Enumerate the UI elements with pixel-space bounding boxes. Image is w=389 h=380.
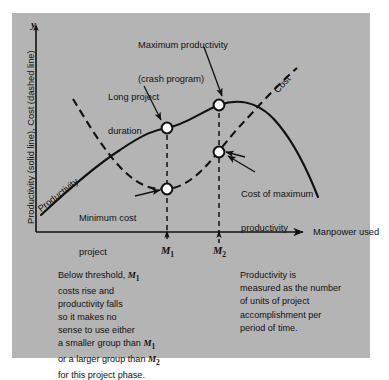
- note-variable: M1: [143, 338, 155, 348]
- callout-cost-of-maximum-productivity-line1: Cost of maximum: [241, 189, 313, 200]
- note-left-line: for this project phase.: [58, 369, 160, 380]
- y-axis-glyph: y: [31, 18, 36, 31]
- tick-label-m2-sub: 2: [222, 250, 226, 259]
- leader-min-cost: [135, 190, 160, 196]
- note-left-line: so it makes no: [58, 311, 160, 324]
- note-right-line: measured as the number: [240, 282, 341, 295]
- note-left-line: a smaller group than M1: [58, 337, 160, 353]
- y-axis-label: Productivity (solid line), Cost (dashed …: [26, 50, 37, 224]
- callout-long-project-duration-line1: Long project: [108, 92, 159, 103]
- callout-long-project-duration: Long project duration: [108, 69, 159, 160]
- note-variable: M1: [128, 270, 140, 280]
- callout-cost-of-maximum-productivity: Cost of maximum productivity: [241, 166, 313, 257]
- note-right-line: period of time.: [240, 322, 341, 335]
- note-left-line: or a larger group than M2: [58, 353, 160, 369]
- note-block-left: Below threshold, M1costs rise andproduct…: [58, 269, 160, 380]
- note-right-line: of units of project: [240, 295, 341, 308]
- callout-minimum-cost-project-line1: Minimum cost: [79, 213, 136, 224]
- note-variable-subscript: 1: [152, 342, 156, 351]
- note-variable-subscript: 2: [156, 358, 160, 367]
- note-variable: M2: [148, 354, 160, 364]
- callout-maximum-productivity-line1: Maximum productivity: [138, 40, 228, 51]
- note-left-line: productivity falls: [58, 298, 160, 311]
- callout-minimum-cost-project-line2: project: [79, 247, 136, 258]
- figure-container: y Productivity (solid line), Cost (dashe…: [0, 0, 389, 380]
- callout-cost-of-maximum-productivity-line2: productivity: [241, 223, 313, 234]
- note-left-line: Below threshold, M1: [58, 269, 160, 285]
- point-long-project-duration: [162, 123, 173, 134]
- m2-dropline: [216, 104, 221, 243]
- tick-label-m1-sub: 1: [170, 250, 174, 259]
- callout-long-project-duration-line2: duration: [108, 126, 159, 137]
- note-right-line: accomplishment per: [240, 309, 341, 322]
- note-left-line: sense to use either: [58, 324, 160, 337]
- tick-label-m2-letter: M: [213, 245, 222, 256]
- x-axis-label: Manpower used: [313, 227, 379, 238]
- point-minimum-cost-project: [162, 184, 173, 195]
- tick-label-m1: M1: [161, 245, 174, 259]
- callout-minimum-cost-project: Minimum cost project: [79, 190, 136, 281]
- tick-label-m1-letter: M: [161, 245, 170, 256]
- tick-label-m2: M2: [213, 245, 226, 259]
- note-variable-subscript: 1: [136, 274, 140, 283]
- note-block-right: Productivity ismeasured as the numberof …: [240, 269, 341, 335]
- note-left-line: costs rise and: [58, 285, 160, 298]
- note-right-line: Productivity is: [240, 269, 341, 282]
- point-cost-of-maximum-productivity: [214, 147, 225, 158]
